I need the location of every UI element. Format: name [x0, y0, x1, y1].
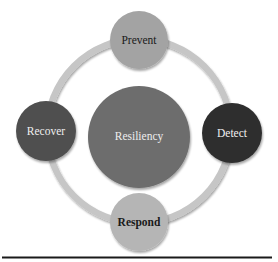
node-prevent: Prevent: [110, 11, 168, 69]
node-label-detect: Detect: [217, 127, 248, 139]
node-label-respond: Respond: [118, 216, 161, 229]
resiliency-cycle-diagram: Resiliency Prevent Detect Respond Recove…: [0, 0, 278, 262]
center-label: Resiliency: [115, 130, 164, 143]
node-label-recover: Recover: [27, 125, 65, 137]
node-label-prevent: Prevent: [121, 34, 157, 46]
node-respond: Respond: [110, 193, 168, 251]
node-recover: Recover: [16, 101, 76, 161]
node-detect: Detect: [202, 103, 262, 163]
center-node-resiliency: Resiliency: [88, 86, 190, 188]
